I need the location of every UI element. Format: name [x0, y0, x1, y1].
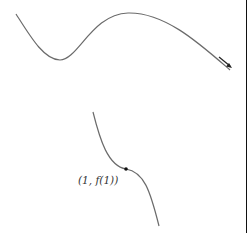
upper-curve	[16, 13, 230, 70]
point-label: (1, f(1))	[78, 174, 118, 186]
inflection-point	[124, 167, 128, 171]
diagram-canvas: (1, f(1))	[0, 0, 248, 233]
